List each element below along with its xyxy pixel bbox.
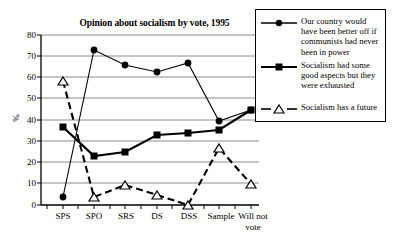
chart-figure: Opinion about socialism by vote, 1995 % …	[0, 0, 394, 250]
marker-square-spo	[91, 153, 98, 160]
marker-square-dss	[185, 130, 192, 137]
marker-square-sample	[216, 127, 223, 134]
marker-circle-srs	[122, 62, 129, 69]
legend-label-line-2: have been better off if	[301, 26, 387, 36]
legend-marker-circle-icon	[260, 17, 298, 29]
legend-label-line-1: Socialism has a future	[301, 102, 387, 112]
legend-label-line-2: good aspects but they	[301, 70, 387, 80]
legend-label-socialism-good-aspects: Socialism had some good aspects but they…	[301, 60, 387, 91]
marker-circle-sps	[60, 194, 67, 201]
legend-label-line-1: Our country would	[301, 16, 387, 26]
series-socialism-has-a-future-line	[63, 81, 251, 205]
gridlines	[41, 35, 259, 183]
series-socialism-has-a-future-markers	[58, 77, 256, 209]
legend-marker-triangle-icon	[260, 103, 298, 115]
marker-triangle-willnotvote	[246, 180, 256, 188]
marker-circle-dss	[185, 60, 192, 67]
legend-label-socialism-has-future: Socialism has a future	[301, 102, 387, 112]
marker-triangle-sps	[58, 77, 68, 85]
marker-triangle-sample	[214, 144, 224, 152]
marker-triangle-spo	[89, 193, 99, 201]
legend-marker-square-icon	[260, 61, 298, 73]
marker-circle-sample	[216, 118, 223, 125]
marker-circle-ds	[154, 69, 161, 76]
legend-label-country-better-off: Our country would have been better off i…	[301, 16, 387, 57]
marker-square-sps	[60, 124, 67, 131]
marker-square-srs	[122, 149, 129, 156]
legend-label-line-1: Socialism had some	[301, 60, 387, 70]
marker-triangle-ds	[152, 191, 162, 199]
marker-square-ds	[154, 132, 161, 139]
chart-legend: Our country would have been better off i…	[255, 9, 386, 122]
marker-square-willnotvote	[248, 107, 255, 114]
legend-label-line-3: were exhausted	[301, 80, 387, 90]
legend-label-line-4: been in power	[301, 47, 387, 57]
legend-label-line-3: communists had never	[301, 36, 387, 46]
marker-circle-spo	[91, 47, 98, 54]
